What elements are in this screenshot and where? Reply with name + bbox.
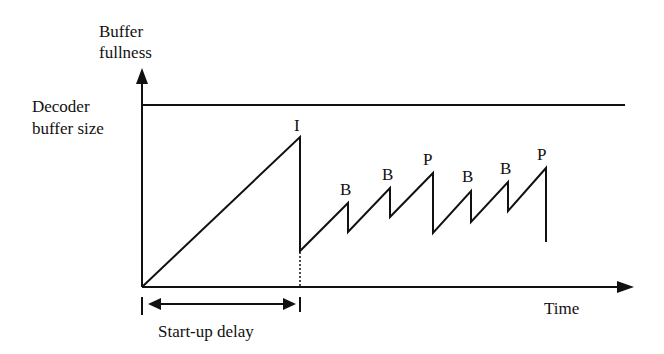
frame-label-i: I [294, 116, 300, 135]
frame-label-b1: B [340, 180, 351, 199]
startup-arrowhead-right [283, 298, 296, 310]
buffer-size-label-line2: buffer size [32, 119, 104, 138]
y-axis-arrowhead [136, 68, 148, 84]
x-axis-arrowhead [617, 281, 634, 293]
y-axis-label-line1: Buffer [99, 22, 143, 41]
frame-label-p2: P [537, 145, 546, 164]
buffer-size-label-line1: Decoder [32, 97, 90, 116]
buffer-fullness-curve [142, 137, 546, 287]
startup-delay-label: Start-up delay [158, 322, 254, 341]
y-axis-label-line2: fullness [99, 43, 152, 62]
frame-label-b4: B [500, 159, 511, 178]
frame-label-b2: B [382, 165, 393, 184]
frame-label-p1: P [423, 150, 432, 169]
startup-arrowhead-left [148, 298, 161, 310]
frame-label-b3: B [462, 167, 473, 186]
x-axis-label: Time [544, 299, 579, 318]
